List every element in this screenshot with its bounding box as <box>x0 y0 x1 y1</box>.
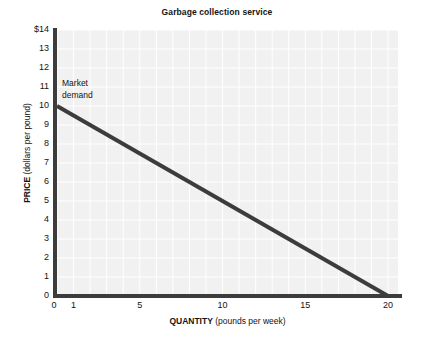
market-demand-annotation-line1: Market <box>62 78 93 90</box>
chart-figure: Garbage collection service 0123456789101… <box>0 0 434 343</box>
y-axis-line <box>53 28 57 298</box>
y-tick-label-1: 1 <box>0 271 49 281</box>
x-tick-label-20: 20 <box>373 300 403 310</box>
x-axis-title: QUANTITY (pounds per week) <box>57 316 398 326</box>
x-tick-label-5: 5 <box>125 300 155 310</box>
x-axis-line <box>53 294 402 298</box>
y-axis-title: PRICE (dollars per pound) <box>22 68 32 238</box>
y-axis-title-bold: PRICE <box>22 177 32 203</box>
market-demand-annotation: Market demand <box>62 78 93 101</box>
market-demand-annotation-line2: demand <box>62 90 93 102</box>
y-axis-title-rest: (dollars per pound) <box>22 103 32 174</box>
y-tick-label-0: 0 <box>0 290 49 300</box>
x-axis-title-rest: (pounds per week) <box>215 316 285 326</box>
y-axis-title-sep <box>22 175 32 177</box>
x-tick-label-1: 1 <box>59 300 89 310</box>
y-tick-label-14: $14 <box>0 24 49 34</box>
x-tick-label-15: 15 <box>290 300 320 310</box>
chart-title: Garbage collection service <box>0 7 434 17</box>
x-axis-title-bold: QUANTITY <box>169 316 212 326</box>
y-tick-label-2: 2 <box>0 252 49 262</box>
plot-area <box>57 30 398 296</box>
series-layer <box>57 30 398 296</box>
x-tick-label-10: 10 <box>208 300 238 310</box>
demand-curve-0 <box>57 106 388 296</box>
y-tick-label-13: 13 <box>0 43 49 53</box>
